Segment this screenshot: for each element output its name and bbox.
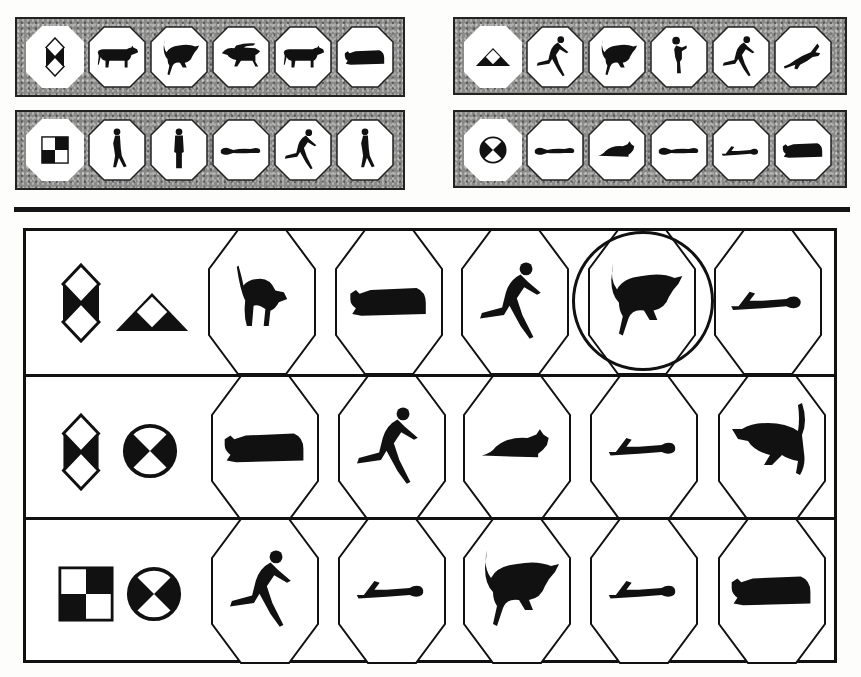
cue-cell (25, 118, 85, 182)
cat-crouching-icon (593, 124, 641, 176)
test-row-2 (26, 374, 834, 520)
option-4-person-lying-knee[interactable] (588, 516, 700, 666)
option-cell (587, 118, 647, 182)
option-1-cat-arched[interactable] (206, 227, 318, 377)
triangle-split-icon (114, 291, 190, 333)
practice-panel-top-right-1 (453, 17, 847, 95)
cat-crouching-icon (473, 401, 561, 489)
test-row-1 (26, 231, 834, 374)
option-cell (335, 118, 395, 182)
person-walking-icon (93, 124, 141, 176)
option-5-bull-leaping-left[interactable] (716, 373, 828, 523)
person-lying-knee-icon (600, 544, 688, 632)
option-cell (87, 118, 147, 182)
person-lying-icon (531, 124, 579, 176)
option-cell (273, 25, 333, 89)
checker-square-icon (41, 136, 69, 164)
person-throwing-icon (655, 31, 703, 83)
circle-cross-icon (122, 423, 178, 479)
cow-lying-icon (217, 399, 313, 495)
practice-panel-top-left-1 (15, 17, 405, 97)
cue-cell (25, 25, 85, 89)
option-4-bull-leaping[interactable] (586, 227, 698, 377)
option-cell (649, 118, 709, 182)
cow-lying-icon (779, 124, 827, 176)
diamond-split-icon (45, 37, 65, 77)
person-lying-icon (217, 124, 265, 176)
option-cell (525, 25, 585, 89)
option-cell (525, 118, 585, 182)
bull-leaping-icon (593, 31, 641, 83)
option-cell (649, 25, 709, 89)
bull-leaping-icon (467, 536, 567, 640)
bull-leaping-left-icon (722, 393, 822, 497)
person-lying-knee-icon (722, 253, 814, 345)
person-running-icon (219, 540, 311, 640)
cow-lying-icon (724, 542, 820, 638)
diamond-split-icon (61, 413, 101, 491)
person-lying-knee-icon (600, 401, 688, 489)
cat-leaping-icon (779, 31, 827, 83)
person-lying-icon (655, 124, 703, 176)
option-1-cow-lying[interactable] (209, 373, 321, 523)
triangle-split-icon (475, 47, 511, 67)
person-running-icon (717, 31, 765, 83)
person-lying-knee-icon (717, 124, 765, 176)
option-5-person-lying-knee[interactable] (712, 227, 824, 377)
option-3-bull-leaping[interactable] (461, 516, 573, 666)
option-2-person-running[interactable] (336, 373, 448, 523)
option-cell (211, 118, 271, 182)
diamond-split-icon (61, 261, 101, 345)
bull-leaping-icon (155, 31, 203, 83)
option-cell (149, 118, 209, 182)
section-divider (14, 207, 850, 212)
test-row-3 (26, 517, 834, 663)
option-cell (149, 25, 209, 89)
option-3-cat-crouching[interactable] (461, 373, 573, 523)
option-cell (773, 118, 833, 182)
person-running-icon (531, 31, 579, 83)
option-1-person-running[interactable] (209, 516, 321, 666)
person-walking-icon (341, 124, 389, 176)
option-2-person-lying-knee[interactable] (336, 516, 448, 666)
option-4-person-lying-knee[interactable] (588, 373, 700, 523)
person-running-icon (469, 253, 561, 351)
option-cell (273, 118, 333, 182)
practice-panel-top-left-2 (15, 110, 405, 190)
option-5-cow-lying[interactable] (716, 516, 828, 666)
cue-cell (463, 118, 523, 182)
option-cell (711, 25, 771, 89)
cue-cell (463, 25, 523, 89)
cow-lying-icon (343, 255, 435, 347)
option-cell (587, 25, 647, 89)
bull-leaping-icon (594, 249, 690, 349)
option-cell (335, 25, 395, 89)
option-cell (711, 118, 771, 182)
cat-arched-icon (220, 257, 304, 341)
cow-standing-icon (93, 31, 141, 83)
option-cell (211, 25, 271, 89)
circle-cross-icon (479, 136, 507, 164)
option-cell (87, 25, 147, 89)
person-running-icon (279, 124, 327, 176)
person-lying-knee-icon (348, 544, 436, 632)
option-2-cow-lying[interactable] (333, 227, 445, 377)
circle-cross-icon (126, 566, 182, 622)
bull-walking-icon (217, 31, 265, 83)
option-cell (773, 25, 833, 89)
cow-standing-icon (279, 31, 327, 83)
test-box (23, 228, 837, 663)
person-standing-icon (155, 124, 203, 176)
checker-square-icon (58, 566, 114, 622)
person-running-icon (346, 397, 438, 497)
cow-lying-icon (341, 31, 389, 83)
option-3-person-running[interactable] (459, 227, 571, 377)
practice-panel-top-right-2 (453, 110, 847, 188)
